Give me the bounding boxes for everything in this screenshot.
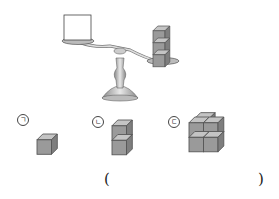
right-pan	[147, 26, 179, 67]
option-label-3: ㄷ	[168, 116, 180, 128]
option-label-1: ㄱ	[17, 114, 29, 126]
option-1-cubes	[37, 134, 57, 154]
balance-diagram	[0, 0, 279, 199]
scale-base	[102, 58, 138, 101]
option-2-cubes	[112, 120, 132, 155]
left-pan	[62, 15, 94, 45]
cube-stack-3	[153, 26, 170, 67]
empty-box	[64, 15, 91, 40]
answer-open-paren: (	[104, 170, 110, 188]
option-label-2: ㄴ	[92, 116, 104, 128]
answer-close-paren: )	[258, 170, 264, 188]
option-3-cubes	[189, 113, 224, 152]
